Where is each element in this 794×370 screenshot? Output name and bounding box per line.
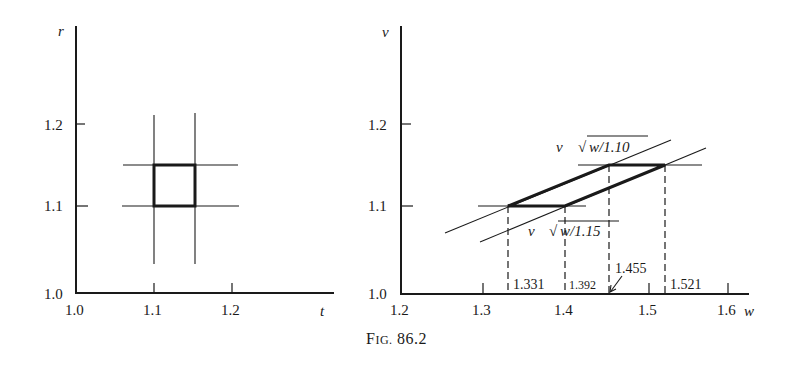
curve-upper-label: v √ w/1.10 — [556, 136, 648, 155]
right-xtick-label-1: 1.3 — [472, 302, 491, 318]
curve-lower-expr: w/1.15 — [560, 223, 601, 239]
right-xtick-label-2: 1.4 — [554, 302, 573, 318]
right-xtick-label-3: 1.5 — [638, 302, 657, 318]
right-xtick-label-4: 1.6 — [717, 302, 736, 318]
left-ytick-label-0: 1.0 — [44, 286, 63, 302]
curve-lower-v: v — [528, 223, 535, 239]
proj-label-1.392: 1.392 — [569, 278, 596, 292]
curve-upper-v: v — [556, 139, 563, 155]
arrow-1.455 — [611, 276, 622, 291]
highlight-parallelogram — [508, 165, 665, 206]
highlight-square — [154, 165, 195, 206]
figure-caption: FIG. 86.2 — [366, 330, 427, 348]
right-ytick-label-0: 1.0 — [368, 286, 387, 302]
right-plot: v √ w/1.10 v √ w/1.15 1.331 1.392 1.455 … — [368, 24, 754, 319]
proj-label-1.331: 1.331 — [513, 277, 545, 292]
right-xtick-label-0: 1.2 — [390, 302, 409, 318]
curve-lower-label: v √ w/1.15 — [528, 221, 619, 239]
caption-prefix-big: F — [366, 330, 375, 347]
left-plot: r t 1.0 1.1 1.2 1.0 1.1 1.2 — [44, 23, 334, 319]
sqrt-icon: √ — [549, 223, 558, 239]
right-ytick-label-1: 1.1 — [368, 198, 387, 214]
figure-canvas: r t 1.0 1.1 1.2 1.0 1.1 1.2 — [0, 0, 794, 370]
sqrt-icon: √ — [578, 139, 587, 155]
left-xtick-label-1: 1.1 — [143, 302, 162, 318]
right-ylabel: v — [382, 24, 389, 40]
right-xlabel: w — [744, 303, 754, 319]
left-ylabel: r — [58, 23, 64, 39]
caption-number: 86.2 — [397, 330, 427, 347]
proj-label-1.455: 1.455 — [615, 261, 647, 276]
caption-prefix-small: IG. — [375, 333, 392, 347]
left-xlabel: t — [320, 303, 325, 319]
curve-upper-expr: w/1.10 — [589, 139, 630, 155]
right-ytick-label-2: 1.2 — [368, 117, 387, 133]
proj-label-1.521: 1.521 — [670, 277, 702, 292]
left-xtick-label-2: 1.2 — [221, 302, 240, 318]
left-ytick-label-1: 1.1 — [44, 198, 63, 214]
left-ytick-label-2: 1.2 — [44, 117, 63, 133]
left-xtick-label-0: 1.0 — [65, 302, 84, 318]
